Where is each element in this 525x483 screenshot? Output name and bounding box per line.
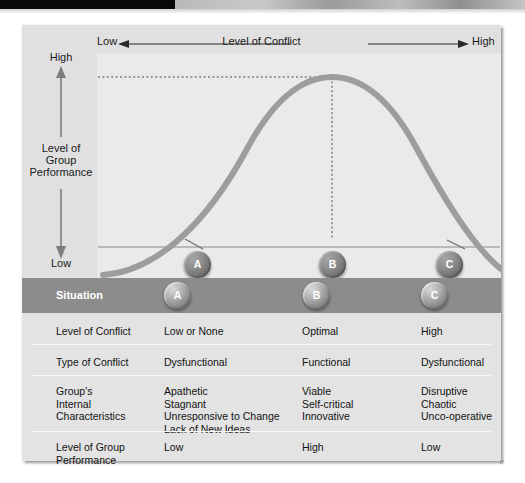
row-label: Group's Internal Characteristics xyxy=(56,385,125,423)
scan-artifact-fade xyxy=(0,9,525,14)
graph-marker-c[interactable]: C xyxy=(436,251,463,278)
table-header-marker-b[interactable]: B xyxy=(303,282,330,309)
row-value-b: Functional xyxy=(302,356,350,369)
graph-marker-c-label: C xyxy=(446,258,454,270)
conflict-performance-graph: Low Level of Conflict High High Level of… xyxy=(22,25,501,278)
graph-marker-a[interactable]: A xyxy=(184,251,211,278)
table-header-situation-row: Situation A B C xyxy=(22,278,501,313)
graph-marker-b[interactable]: B xyxy=(319,251,346,278)
row-value-a: Low xyxy=(164,441,183,454)
performance-curve xyxy=(103,77,501,278)
row-value-c: Dysfunctional xyxy=(421,356,484,369)
row-divider xyxy=(32,375,491,376)
row-value-a: Low or None xyxy=(164,325,224,338)
row-label: Level of Group Performance xyxy=(56,441,125,466)
figure-frame: Low Level of Conflict High High Level of… xyxy=(21,24,500,460)
row-value-b: High xyxy=(302,441,324,454)
row-value-c: Low xyxy=(421,441,440,454)
bell-curve-plot xyxy=(97,53,501,278)
leader-line-c xyxy=(447,240,465,249)
situation-header-label: Situation xyxy=(56,289,103,301)
row-value-b: Optimal xyxy=(302,325,338,338)
row-label: Type of Conflict xyxy=(56,356,128,369)
row-divider xyxy=(32,431,491,432)
row-value-c: Disruptive Chaotic Unco-operative xyxy=(421,385,492,423)
situation-comparison-table: Level of Conflict Low or None Optimal Hi… xyxy=(22,313,501,461)
table-header-marker-a-label: A xyxy=(174,289,182,301)
scan-artifact-strip xyxy=(0,0,525,9)
row-value-a: Dysfunctional xyxy=(164,356,227,369)
table-header-marker-c[interactable]: C xyxy=(421,282,448,309)
table-header-marker-a[interactable]: A xyxy=(164,282,191,309)
row-value-b: Viable Self-critical Innovative xyxy=(302,385,353,423)
row-divider xyxy=(32,344,491,345)
row-value-c: High xyxy=(421,325,443,338)
table-header-marker-c-label: C xyxy=(431,289,439,301)
table-header-marker-b-label: B xyxy=(313,289,321,301)
graph-marker-a-label: A xyxy=(194,258,202,270)
performance-axis-arrow-icon xyxy=(50,49,72,278)
row-label: Level of Conflict xyxy=(56,325,131,338)
graph-marker-b-label: B xyxy=(329,258,337,270)
row-value-a: Apathetic Stagnant Unresponsive to Chang… xyxy=(164,385,280,435)
